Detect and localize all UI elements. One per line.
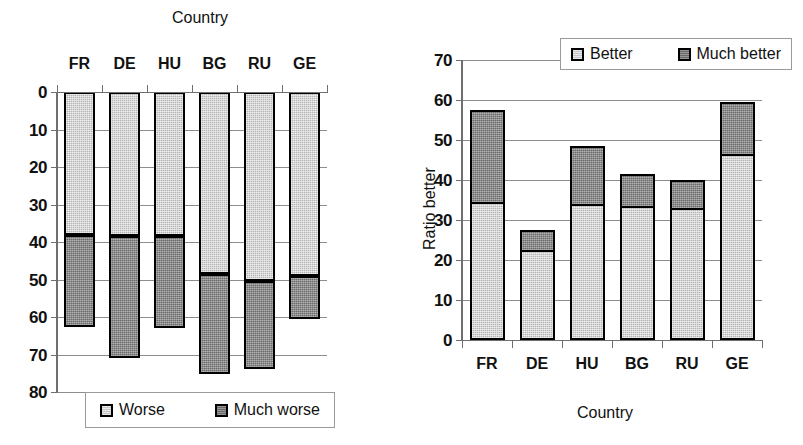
two-panel-stacked-bar-figure: Country 01020304050607080FRDEHUBGRUGEWor… [0, 0, 803, 445]
x-axis-tick [512, 340, 513, 348]
y-axis-tick-label: 10 [0, 122, 47, 139]
bar-segment-better[interactable] [620, 206, 655, 340]
legend-label: Much worse [234, 402, 320, 418]
legend-label: Much better [697, 46, 781, 62]
legend-entry-better[interactable]: Better [571, 46, 633, 62]
gridline [57, 242, 327, 243]
bar-hu[interactable] [570, 60, 605, 340]
x-axis-tick-label-bg: BG [192, 56, 237, 72]
bar-de[interactable] [520, 60, 555, 340]
bar-segment-much-better[interactable] [620, 174, 655, 208]
better-chart: Ratio better Country 010203040506070FRDE… [400, 0, 803, 445]
better-chart-plot-area [462, 60, 762, 340]
y-axis-tick-label: 0 [404, 332, 452, 349]
legend-swatch-icon [571, 48, 584, 61]
legend-swatch-icon [678, 48, 691, 61]
y-axis-tick [51, 392, 58, 393]
x-axis-tick [612, 340, 613, 348]
bar-segment-worse[interactable] [199, 92, 230, 274]
x-axis-tick-label-bg: BG [612, 356, 662, 372]
bar-segment-worse[interactable] [64, 92, 95, 235]
legend-entry-worse[interactable]: Worse [100, 402, 165, 418]
x-axis-tick-label-de: DE [102, 56, 147, 72]
bar-fr[interactable] [64, 92, 95, 392]
bar-segment-much-better[interactable] [670, 180, 705, 210]
bar-ru[interactable] [670, 60, 705, 340]
y-axis-line [461, 60, 463, 340]
bar-segment-worse[interactable] [154, 92, 185, 236]
x-axis-tick-label-ge: GE [282, 56, 327, 72]
bar-segment-much-worse[interactable] [64, 235, 95, 327]
x-axis-tick [462, 340, 463, 348]
bar-segment-much-worse[interactable] [109, 236, 140, 358]
x-axis-tick-label-fr: FR [462, 356, 512, 372]
x-axis-line [462, 340, 762, 341]
bar-segment-much-worse[interactable] [244, 281, 275, 369]
bar-de[interactable] [109, 92, 140, 392]
bar-segment-better[interactable] [470, 202, 505, 340]
gridline [57, 167, 327, 168]
bar-segment-much-better[interactable] [720, 102, 755, 156]
gridline [462, 100, 762, 101]
y-axis-tick-label: 30 [0, 197, 47, 214]
gridline [462, 180, 762, 181]
bar-bg[interactable] [620, 60, 655, 340]
worse-chart: Country 01020304050607080FRDEHUBGRUGEWor… [0, 0, 400, 445]
worse-chart-plot-area [57, 92, 327, 392]
y-axis-tick-label: 0 [0, 84, 47, 101]
worse-chart-x-axis-title: Country [120, 10, 280, 26]
x-axis-tick [662, 340, 663, 348]
x-axis-tick-label-hu: HU [562, 356, 612, 372]
bar-segment-much-worse[interactable] [289, 276, 320, 319]
legend-label: Worse [119, 402, 165, 418]
bar-segment-better[interactable] [720, 154, 755, 340]
y-axis-tick-label: 20 [0, 159, 47, 176]
bar-segment-better[interactable] [670, 208, 705, 340]
y-axis-tick-label: 50 [0, 272, 47, 289]
legend-entry-much-better[interactable]: Much better [678, 46, 781, 62]
bar-ge[interactable] [720, 60, 755, 340]
y-axis-tick-label: 80 [0, 384, 47, 401]
bar-bg[interactable] [199, 92, 230, 392]
gridline [462, 300, 762, 301]
worse-chart-legend[interactable]: WorseMuch worse [85, 392, 335, 428]
bar-segment-much-worse[interactable] [199, 274, 230, 374]
x-axis-tick [762, 340, 763, 348]
bar-segment-better[interactable] [520, 250, 555, 340]
y-axis-tick-label: 60 [0, 309, 47, 326]
y-axis-tick-label: 60 [404, 92, 452, 109]
gridline [462, 140, 762, 141]
gridline [57, 355, 327, 356]
bar-ru[interactable] [244, 92, 275, 392]
bar-segment-much-worse[interactable] [154, 236, 185, 328]
bar-ge[interactable] [289, 92, 320, 392]
x-axis-tick-label-fr: FR [57, 56, 102, 72]
bar-segment-worse[interactable] [109, 92, 140, 236]
bar-segment-much-better[interactable] [470, 110, 505, 204]
bar-segment-worse[interactable] [289, 92, 320, 276]
x-axis-tick [712, 340, 713, 348]
bar-hu[interactable] [154, 92, 185, 392]
gridline [57, 130, 327, 131]
y-axis-tick-label: 70 [404, 52, 452, 69]
x-axis-tick [327, 85, 328, 93]
x-axis-tick [562, 340, 563, 348]
gridline [462, 260, 762, 261]
better-chart-legend[interactable]: BetterMuch better [560, 38, 792, 70]
bar-segment-worse[interactable] [244, 92, 275, 281]
gridline [57, 280, 327, 281]
y-axis-tick-label: 70 [0, 347, 47, 364]
y-axis-tick-label: 20 [404, 252, 452, 269]
legend-entry-much-worse[interactable]: Much worse [215, 402, 320, 418]
y-axis-tick-label: 40 [404, 172, 452, 189]
bar-segment-much-better[interactable] [520, 230, 555, 252]
bar-fr[interactable] [470, 60, 505, 340]
bar-segment-much-better[interactable] [570, 146, 605, 206]
legend-swatch-icon [100, 404, 113, 417]
x-axis-tick-label-ru: RU [662, 356, 712, 372]
gridline [462, 220, 762, 221]
legend-swatch-icon [215, 404, 228, 417]
bar-segment-better[interactable] [570, 204, 605, 340]
legend-label: Better [590, 46, 633, 62]
y-axis-tick-label: 10 [404, 292, 452, 309]
